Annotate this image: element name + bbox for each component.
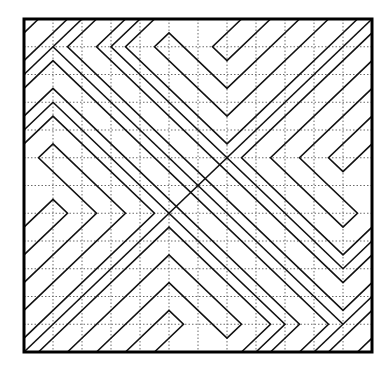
pattern-polyline xyxy=(358,338,373,352)
pattern-polyline xyxy=(24,19,39,33)
line-pattern-diagram xyxy=(0,0,391,372)
pattern-polyline xyxy=(24,116,155,338)
pattern-polyline xyxy=(24,144,126,311)
pattern-polyline xyxy=(68,255,242,352)
pattern-polyline xyxy=(39,227,271,352)
pattern-polyline xyxy=(126,19,358,144)
pattern-polyline xyxy=(271,61,373,228)
pattern-polyline xyxy=(242,33,373,255)
pattern-polyline xyxy=(155,19,329,116)
